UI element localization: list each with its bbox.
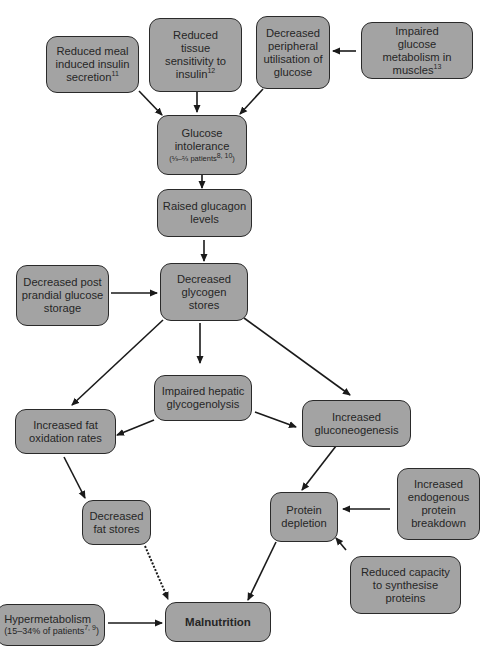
arrow-gluconeogenesis-to-protein-depletion	[302, 446, 336, 490]
node-hypermetabolism: Hypermetabolism (15–34% of patients7, 9)	[0, 604, 105, 646]
arrow-meal-insulin-to-glucose-intolerance	[139, 91, 162, 115]
node-label: Hypermetabolism	[4, 613, 91, 625]
node-label: Decreased peripheral utilisation of gluc…	[260, 27, 326, 79]
node-impaired-hepatic-glycogenolysis: Impaired hepatic glycogenolysis	[154, 375, 252, 421]
node-reduced-tissue-sensitivity: Reduced tissue sensitivity to insulin12	[149, 18, 242, 92]
node-impaired-glucose-metabolism: Impaired glucose metabolism in muscles13	[361, 22, 473, 79]
node-label: Reduced capacity to synthesise proteins	[361, 566, 450, 605]
node-reduced-protein-synthesis: Reduced capacity to synthesise proteins	[350, 556, 461, 614]
node-glucose-intolerance: Glucose intolerance (⅓–⅔ patients8, 10)	[157, 115, 247, 175]
arrow-peripheral-utilisation-to-glucose-intolerance	[240, 89, 263, 114]
reference-number: 13	[434, 63, 442, 70]
flowchart-canvas: Reduced meal induced insulin secretion11…	[0, 0, 487, 657]
node-increased-protein-breakdown: Increased endogenous protein breakdown	[397, 468, 480, 540]
node-malnutrition: Malnutrition	[165, 602, 271, 642]
node-subtitle: (⅓–⅔ patients8, 10)	[164, 153, 240, 164]
node-decreased-fat-stores: Decreased fat stores	[82, 500, 151, 545]
node-increased-gluconeogenesis: Increased gluconeogenesis	[302, 400, 411, 447]
arrow-fat-oxidation-to-fat-stores	[64, 457, 85, 498]
node-raised-glucagon: Raised glucagon levels	[157, 189, 252, 237]
node-label: Reduced meal induced insulin secretion	[55, 45, 129, 83]
node-label: Increased fat oxidation rates	[26, 419, 105, 445]
arrow-glycogenolysis-to-gluconeogenesis	[255, 412, 296, 427]
arrow-fat-stores-to-malnutrition	[145, 546, 168, 599]
arrow-protein-depletion-to-malnutrition	[248, 542, 276, 600]
node-label: Decreased fat stores	[86, 510, 147, 536]
node-label: Increased endogenous protein breakdown	[404, 478, 473, 530]
node-decreased-postprandial-storage: Decreased post prandial glucose storage	[16, 265, 109, 326]
node-label: Protein depletion	[279, 504, 329, 530]
node-label: Decreased glycogen stores	[175, 273, 233, 312]
node-label: Malnutrition	[185, 616, 251, 629]
node-label: Raised glucagon levels	[161, 200, 248, 226]
node-increased-fat-oxidation: Increased fat oxidation rates	[15, 409, 116, 454]
node-label: Decreased post prandial glucose storage	[20, 276, 105, 315]
arrow-glycogen-to-gluconeogenesis	[244, 318, 350, 395]
arrow-glycogen-to-fat-oxidation	[72, 320, 163, 405]
node-label: Reduced tissue sensitivity to insulin	[165, 29, 226, 80]
reference-number: 12	[207, 67, 215, 74]
reference-number: 11	[112, 70, 119, 77]
node-label: Glucose intolerance	[175, 127, 230, 152]
node-subtitle: (15–34% of patients7, 9)	[4, 626, 99, 637]
node-decreased-glycogen-stores: Decreased glycogen stores	[160, 263, 248, 321]
node-decreased-peripheral-utilisation: Decreased peripheral utilisation of gluc…	[256, 16, 330, 89]
node-label: Impaired hepatic glycogenolysis	[158, 385, 248, 411]
node-reduced-meal-insulin: Reduced meal induced insulin secretion11	[46, 36, 139, 93]
arrow-glycogenolysis-to-fat-oxidation	[117, 420, 154, 435]
arrow-protein-synthesis-to-protein-depletion	[336, 538, 346, 550]
node-protein-depletion: Protein depletion	[270, 492, 338, 542]
node-label: Increased gluconeogenesis	[306, 411, 407, 437]
